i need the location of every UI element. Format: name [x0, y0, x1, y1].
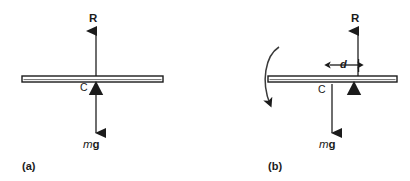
panel-a-weight-label: mg — [83, 139, 100, 151]
panel-b-beam — [268, 76, 397, 82]
panel-b-weight-label: mg — [319, 139, 336, 151]
panel-b-weight-mass-symbol: m — [319, 138, 329, 150]
panel-a-caption: (a) — [22, 161, 35, 172]
panel-b-graphics — [265, 31, 397, 133]
panel-b-caption: (b) — [268, 161, 282, 172]
panel-b-weight-gravity-symbol: g — [329, 138, 336, 150]
panel-a-beam — [22, 76, 163, 82]
panel-a-weight-mass-symbol: m — [83, 138, 93, 150]
panel-a-pivot-triangle — [89, 81, 103, 95]
figure-canvas — [0, 0, 410, 181]
panel-b-reaction-label: R — [351, 13, 360, 25]
panel-a-weight-gravity-symbol: g — [93, 138, 100, 150]
panel-a-centre-of-gravity-label: C — [80, 82, 88, 93]
physics-figure: R C mg (a) R d C mg (b) — [0, 0, 410, 181]
panel-b-pivot-triangle — [347, 81, 361, 95]
panel-b-offset-distance-label: d — [340, 59, 347, 70]
panel-b-centre-of-gravity-label: C — [318, 84, 326, 95]
panel-a-reaction-label: R — [89, 13, 98, 25]
panel-a-graphics — [22, 31, 163, 133]
